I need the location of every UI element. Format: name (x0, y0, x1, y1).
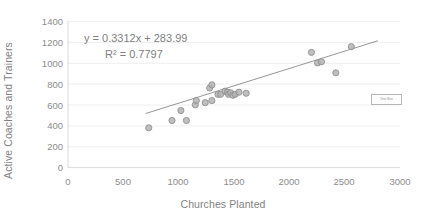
r-squared-label: R² = 0.7797 (105, 48, 163, 60)
data-point-marker[interactable] (178, 107, 184, 113)
x-tick-labels: 0 500 1000 1500 2000 2500 3000 (65, 176, 410, 187)
y-tick-label: 400 (47, 120, 63, 131)
x-tick-label: 1500 (223, 176, 244, 187)
data-point-marker[interactable] (202, 100, 208, 106)
trendline-segment (145, 41, 377, 114)
x-tick-label: 0 (65, 176, 70, 187)
x-axis-title: Churches Planted (68, 198, 378, 210)
data-point-marker[interactable] (348, 44, 354, 50)
scatter-chart: Active Coaches and Trainers 1400 1200 10… (0, 0, 444, 221)
data-point-marker[interactable] (318, 59, 324, 65)
trendline (145, 41, 377, 114)
x-tick-label: 2500 (333, 176, 354, 187)
x-tick-label: 500 (115, 176, 131, 187)
y-tick-label: 1000 (42, 58, 63, 69)
y-tick-label: 1400 (42, 16, 63, 27)
y-tick-label: 200 (47, 141, 63, 152)
y-tick-labels: 1400 1200 1000 800 600 400 200 0 (42, 16, 63, 173)
plot-area: 1400 1200 1000 800 600 400 200 0 0 500 1… (0, 0, 444, 221)
data-point-marker[interactable] (169, 117, 175, 123)
text-box-annotation[interactable]: Text Box (371, 94, 402, 105)
regression-equation-label: y = 0.3312x + 283.99 (84, 32, 187, 44)
data-point-marker[interactable] (308, 49, 314, 55)
data-point-marker[interactable] (193, 97, 199, 103)
data-point-marker[interactable] (209, 82, 215, 88)
y-tick-label: 800 (47, 79, 63, 90)
y-tick-label: 1200 (42, 37, 63, 48)
data-point-marker[interactable] (183, 117, 189, 123)
x-tick-label: 1000 (167, 176, 188, 187)
y-tick-label: 600 (47, 100, 63, 111)
data-point-marker[interactable] (236, 89, 242, 95)
data-point-marker[interactable] (146, 125, 152, 131)
x-tick-label: 3000 (389, 176, 410, 187)
y-tick-label: 0 (58, 162, 63, 173)
data-point-marker[interactable] (333, 70, 339, 76)
x-tick-label: 2000 (278, 176, 299, 187)
data-point-marker[interactable] (243, 90, 249, 96)
data-point-marker[interactable] (209, 97, 215, 103)
data-points (146, 44, 355, 131)
